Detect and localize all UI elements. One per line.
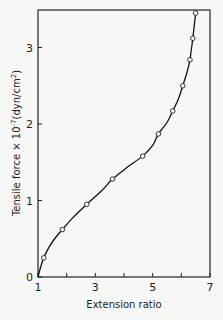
x-axis-ticks: 1357	[35, 273, 214, 294]
y-axis-ticks: 0123	[26, 42, 42, 285]
data-point-marker	[188, 57, 193, 62]
data-point-marker	[140, 154, 145, 159]
x-tick-label: 3	[92, 281, 99, 294]
data-point-marker	[156, 132, 161, 137]
y-tick-label: 3	[26, 42, 33, 55]
x-tick-label: 5	[149, 281, 156, 294]
data-point-marker	[60, 227, 65, 232]
x-tick-label: 1	[35, 281, 42, 294]
x-axis-label: Extension ratio	[86, 299, 161, 310]
y-tick-label: 2	[26, 118, 33, 131]
tensile-force-chart: 1357 0123 Extension ratio Tensile force …	[0, 0, 223, 320]
data-point-marker	[193, 11, 198, 16]
data-point-marker	[41, 256, 46, 261]
plot-frame	[38, 10, 210, 277]
y-tick-label: 0	[26, 271, 33, 284]
fitted-curve	[38, 13, 196, 277]
data-point-marker	[191, 36, 196, 41]
data-point-marker	[170, 109, 175, 114]
data-points	[41, 11, 198, 260]
y-axis-label: Tensile force × 10-7(dyn/cm2)	[10, 70, 22, 217]
y-tick-label: 1	[26, 195, 33, 208]
data-point-marker	[180, 83, 185, 88]
x-tick-label: 7	[207, 281, 214, 294]
data-point-marker	[110, 177, 115, 182]
data-point-marker	[84, 202, 89, 207]
